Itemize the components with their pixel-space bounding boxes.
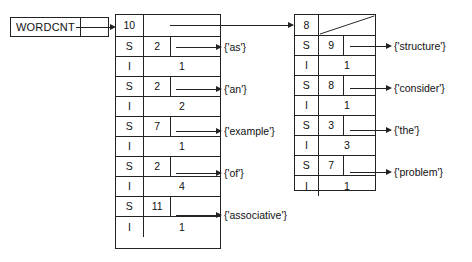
variable-name-label: WORDCNT: [11, 18, 81, 36]
arrowhead-value: [386, 169, 392, 175]
right-table-header-row: 8: [295, 15, 375, 36]
connector-to-value-label: [176, 89, 218, 90]
int-count-cell: 3: [319, 136, 375, 155]
connector-to-value-label: [350, 130, 388, 131]
table-row: S2: [116, 157, 220, 177]
left-table-count-cell: 10: [116, 15, 144, 36]
table-row: S11: [116, 197, 220, 217]
value-label: {'the'}: [394, 124, 420, 136]
table-row: S2: [116, 77, 220, 97]
row-type-cell: S: [295, 156, 319, 175]
arrowhead-value: [386, 85, 392, 91]
row-type-cell: S: [116, 77, 144, 96]
value-label: {'as'}: [224, 41, 246, 53]
row-type-cell: I: [295, 136, 319, 155]
arrowhead-value: [216, 44, 222, 50]
string-length-cell: 11: [144, 197, 172, 216]
value-label: {'problem'}: [394, 166, 443, 178]
string-pointer-cell: [171, 77, 220, 96]
row-type-cell: S: [295, 76, 319, 95]
right-table: 8 S9I1S8I1S3I3S7I1: [294, 14, 376, 191]
left-table-body: S2I1S2I2S7I1S2I4S11I1: [116, 37, 220, 237]
connector-to-value-label: [176, 47, 218, 48]
table-row: I1: [116, 137, 220, 157]
null-pointer-slash-icon: [319, 15, 375, 35]
int-count-cell: 4: [144, 177, 220, 196]
table-row: I1: [116, 217, 220, 237]
int-count-cell: 1: [144, 217, 220, 237]
value-label: {'example'}: [224, 125, 275, 137]
string-length-cell: 2: [144, 157, 172, 176]
row-type-cell: I: [295, 56, 319, 75]
right-table-null-pointer-cell: [319, 15, 375, 35]
string-length-cell: 8: [319, 76, 345, 95]
row-type-cell: S: [295, 116, 319, 135]
int-count-cell: 2: [144, 97, 220, 116]
string-length-cell: 7: [144, 117, 172, 136]
row-type-cell: I: [116, 177, 144, 196]
string-length-cell: 7: [319, 156, 345, 175]
int-count-cell: 1: [144, 57, 220, 76]
connector-to-value-label: [176, 173, 218, 174]
string-pointer-cell: [171, 117, 220, 136]
arrowhead-value: [216, 128, 222, 134]
arrowhead-value: [216, 212, 222, 218]
connector-to-value-label: [176, 131, 218, 132]
value-label: {'of'}: [224, 167, 244, 179]
arrowhead-value: [386, 43, 392, 49]
row-type-cell: S: [116, 157, 144, 176]
left-table-header-row: 10: [116, 15, 220, 37]
row-type-cell: I: [295, 176, 319, 196]
table-row: I3: [295, 136, 375, 156]
row-type-cell: I: [295, 96, 319, 115]
table-row: I4: [116, 177, 220, 197]
table-row: I2: [116, 97, 220, 117]
int-count-cell: 1: [319, 176, 375, 196]
connector-left-to-right-table: [170, 25, 293, 26]
string-length-cell: 3: [319, 116, 345, 135]
diagram-canvas: WORDCNT 10 S2I1S2I2S7I1S2I4S11I1 8 S9I1S…: [0, 0, 472, 262]
value-label: {'consider'}: [394, 82, 445, 94]
value-label: {'structure'}: [394, 40, 446, 52]
string-pointer-cell: [171, 197, 220, 216]
row-type-cell: I: [116, 217, 144, 237]
row-type-cell: I: [116, 97, 144, 116]
string-length-cell: 2: [144, 37, 172, 56]
int-count-cell: 1: [319, 56, 375, 75]
table-row: S3: [295, 116, 375, 136]
int-count-cell: 1: [144, 137, 220, 156]
row-type-cell: I: [116, 137, 144, 156]
row-type-cell: S: [116, 197, 144, 216]
value-label: {'an'}: [224, 83, 247, 95]
row-type-cell: S: [295, 36, 319, 55]
row-type-cell: I: [116, 57, 144, 76]
value-label: {'associative'}: [224, 209, 287, 221]
int-count-cell: 1: [319, 96, 375, 115]
string-length-cell: 2: [144, 77, 172, 96]
row-type-cell: S: [116, 117, 144, 136]
table-row: I1: [295, 176, 375, 196]
table-row: I1: [295, 96, 375, 116]
connector-to-value-label: [350, 88, 388, 89]
connector-to-value-label: [176, 215, 218, 216]
string-pointer-cell: [344, 116, 375, 135]
connector-to-value-label: [350, 172, 388, 173]
table-row: S8: [295, 76, 375, 96]
string-pointer-cell: [344, 76, 375, 95]
arrowhead-value: [386, 127, 392, 133]
table-row: S7: [295, 156, 375, 176]
right-table-count-cell: 8: [295, 15, 319, 35]
string-length-cell: 9: [319, 36, 345, 55]
table-row: S7: [116, 117, 220, 137]
table-row: I1: [295, 56, 375, 76]
row-type-cell: S: [116, 37, 144, 56]
connector-to-value-label: [350, 46, 388, 47]
table-row: I1: [116, 57, 220, 77]
connector-wordcnt-to-left-table: [76, 27, 113, 28]
arrowhead-value: [216, 86, 222, 92]
arrowhead-value: [216, 170, 222, 176]
